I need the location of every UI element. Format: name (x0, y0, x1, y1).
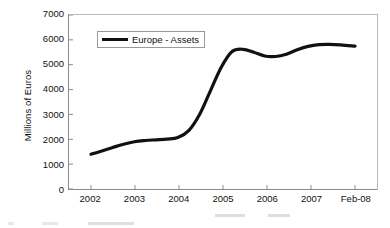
x-axis-tick-label: 2003 (124, 193, 145, 205)
x-axis-tick-label: 2004 (168, 193, 189, 205)
x-axis-tick-label: 2005 (212, 193, 233, 205)
y-axis-tick-label: 2000 (26, 135, 64, 145)
y-axis-tick-label: 7000 (26, 9, 64, 19)
y-axis-tick-label: 4000 (26, 84, 64, 94)
x-axis-tick-labels: 200220032004200520062007Feb-08 (68, 193, 378, 209)
legend-line-swatch-icon (102, 38, 128, 41)
y-axis-tick-label: 5000 (26, 59, 64, 69)
x-axis-tick-label: 2006 (257, 193, 278, 205)
y-axis-tick-label: 0 (26, 185, 64, 195)
y-axis-tick-labels: 01000200030004000500060007000 (26, 14, 64, 190)
legend-label: Europe - Assets (132, 34, 199, 45)
chart-legend: Europe - Assets (97, 31, 205, 48)
y-axis-tick-label: 3000 (26, 110, 64, 120)
page-scan-artifacts (0, 214, 390, 228)
y-axis-tick-label: 6000 (26, 34, 64, 44)
chart-container: Millions of Euros 0100020003000400050006… (0, 0, 390, 228)
x-axis-tickmarks (91, 185, 355, 189)
series-line-europe-assets (91, 44, 355, 154)
y-axis-tickmarks (69, 15, 73, 189)
y-axis-tick-label: 1000 (26, 160, 64, 170)
x-axis-tick-label: Feb-08 (341, 193, 371, 205)
x-axis-tick-label: 2002 (80, 193, 101, 205)
x-axis-tick-label: 2007 (301, 193, 322, 205)
